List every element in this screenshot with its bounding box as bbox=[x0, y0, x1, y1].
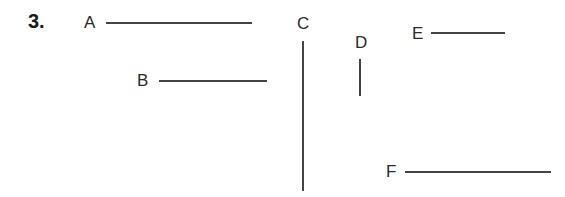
segment-c bbox=[302, 41, 304, 191]
label-d: D bbox=[355, 34, 367, 51]
segment-d bbox=[359, 59, 361, 96]
label-a: A bbox=[84, 14, 95, 31]
segment-e bbox=[431, 32, 505, 34]
segment-f bbox=[405, 171, 551, 173]
segment-a bbox=[106, 22, 252, 24]
line-segments-diagram: 3. A B C D E F bbox=[0, 0, 565, 197]
label-c: C bbox=[297, 15, 309, 32]
question-number: 3. bbox=[28, 10, 45, 33]
label-f: F bbox=[386, 163, 396, 180]
label-e: E bbox=[412, 25, 423, 42]
label-b: B bbox=[137, 72, 148, 89]
segment-b bbox=[159, 80, 267, 82]
